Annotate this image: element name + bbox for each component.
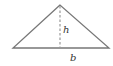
base-label: b bbox=[70, 52, 76, 63]
triangle-diagram: h b bbox=[0, 0, 113, 66]
triangle-outline bbox=[13, 5, 109, 48]
height-label: h bbox=[63, 24, 69, 35]
